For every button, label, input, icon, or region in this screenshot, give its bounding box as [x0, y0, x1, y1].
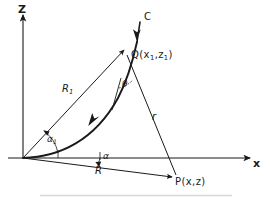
point-label-q-main: Q(x [131, 49, 150, 60]
angle-label-alpha1: α1 [47, 135, 57, 145]
point-label-q-mid: ,z [155, 49, 164, 60]
axis-label-x: x [253, 158, 260, 169]
angle-label-alpha: α [103, 152, 109, 161]
angle-label-alpha1-sub: 1 [53, 138, 57, 145]
figure-container: Z x C Q(x1,z1) P(x,z) R1 R r α1 α θ [0, 0, 270, 199]
point-label-q-end: ) [169, 49, 173, 60]
axis-label-z: Z [18, 4, 26, 15]
segment-label-r-small: r [152, 112, 156, 122]
angle-label-theta: θ [122, 80, 128, 89]
segment-label-r1-main: R [62, 83, 69, 94]
segment-label-r1: R1 [62, 84, 73, 96]
segment-r1 [23, 50, 124, 158]
point-label-p: P(x,z) [175, 177, 206, 187]
ray-path-curve-c [23, 22, 141, 158]
curve-label-c: C [144, 12, 151, 22]
diagram-svg [0, 0, 270, 199]
segment-label-r-ground: R [95, 166, 102, 176]
point-label-q: Q(x1,z1) [131, 50, 173, 62]
segment-label-r1-sub: 1 [69, 88, 73, 96]
